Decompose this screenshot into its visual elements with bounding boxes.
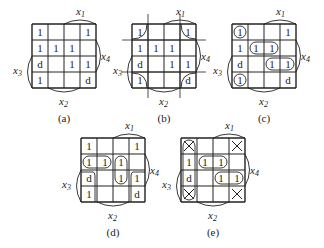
kmap-cell: 1 [218,156,224,168]
kmap-cell: 1 [53,42,59,54]
kmap-cell: 1 [269,58,275,70]
kmap-cell: 1 [102,156,108,168]
kmap-cell: 1 [153,42,159,54]
kmap-cell: 1 [186,156,192,168]
kmap-cell: 1 [285,26,291,38]
kmap-cell: 1 [69,42,75,54]
label-x4: x4 [100,50,110,64]
label-x2: x2 [258,95,268,109]
kmap-e: 111d11x1x4x2x3(e) [161,119,259,239]
kmap-b: 11111d111dx1x4x2x3(b) [112,5,210,125]
label-x2: x2 [158,95,168,109]
kmap-cell: 1 [237,26,243,38]
kmap-cell: d [137,58,143,70]
label-x2: x2 [58,95,68,109]
kmap-cell: 1 [37,42,43,54]
label-x3: x3 [161,178,171,192]
label-x4: x4 [249,164,259,178]
kmap-cell: 1 [285,58,291,70]
kmap-cell: d [186,172,192,184]
caption-e: (e) [207,226,220,239]
kmap-d: 11111d111dx1x4x2x3(d) [61,119,159,239]
karnaugh-maps-figure: 11111d111dx1x4x2x3(a)11111d111dx1x4x2x3(… [0,0,324,248]
kmap-cell: 1 [169,42,175,54]
kmap-cell: 1 [37,26,43,38]
kmap-cell: 1 [237,42,243,54]
kmap-cell: d [285,74,291,86]
caption-b: (b) [158,112,171,125]
label-x4: x4 [149,164,159,178]
kmap-cell: d [86,172,92,184]
label-x4: x4 [300,50,310,64]
caption-d: (d) [107,226,120,239]
label-x1: x1 [75,5,85,19]
label-x2: x2 [207,209,217,223]
label-x3: x3 [61,178,71,192]
kmap-a: 11111d111dx1x4x2x3(a) [12,5,110,125]
label-x3: x3 [12,64,22,78]
kmap-cell: 1 [118,172,124,184]
kmap-cell: 1 [218,172,224,184]
kmap-cell: 1 [86,188,92,200]
kmap-cell: 1 [134,140,140,152]
kmap-cell: 1 [269,42,275,54]
kmap-cell: d [237,58,243,70]
kmap-cell: d [134,188,140,200]
kmap-cell: d [37,58,43,70]
kmap-cell: 1 [85,58,91,70]
kmap-cell: 1 [169,58,175,70]
kmap-cell: 1 [69,58,75,70]
label-x4: x4 [200,50,210,64]
kmap-cell: 1 [185,58,191,70]
kmap-c: 11111d111dx1x4x2x3(c) [212,5,310,125]
label-x3: x3 [112,64,122,78]
kmap-cell: 1 [253,42,259,54]
kmap-cell: 1 [118,156,124,168]
caption-a: (a) [58,112,71,125]
label-x3: x3 [212,64,222,78]
kmap-cell: 1 [86,140,92,152]
label-x1: x1 [224,119,234,133]
kmap-cell: 1 [85,26,91,38]
kmap-cell: 1 [234,172,240,184]
kmap-cell: 1 [37,74,43,86]
kmap-cell: 1 [237,74,243,86]
kmap-cell: 1 [137,42,143,54]
kmap-cell: 1 [86,156,92,168]
kmap-cell: 1 [134,172,140,184]
label-x1: x1 [275,5,285,19]
kmap-cell: d [85,74,91,86]
label-x1: x1 [124,119,134,133]
kmap-cell: 1 [202,156,208,168]
label-x2: x2 [107,209,117,223]
caption-c: (c) [258,112,271,125]
